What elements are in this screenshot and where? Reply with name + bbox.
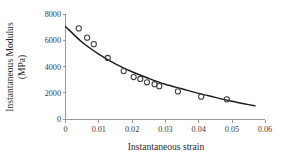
- x-tick-label-0.03: 0.03: [158, 125, 172, 134]
- y-tick-label-4000: 4000: [45, 63, 61, 72]
- data-point: [138, 76, 143, 81]
- data-point: [85, 35, 90, 40]
- data-point: [91, 42, 96, 47]
- y-tick-label-6000: 6000: [45, 36, 61, 45]
- x-tick-label-0: 0: [63, 125, 67, 134]
- data-point: [121, 68, 126, 73]
- x-axis-title: Instantaneous strain: [128, 141, 205, 152]
- x-tick-label-0.05: 0.05: [225, 125, 239, 134]
- scatter-plot: Instantaneous Modulus (MPa) 8000 6000 40…: [0, 0, 281, 158]
- data-point: [199, 94, 204, 99]
- data-point: [175, 89, 180, 94]
- y-tick-label-8000: 8000: [45, 10, 61, 19]
- y-tick-label-2000: 2000: [45, 89, 61, 98]
- data-point: [144, 80, 149, 85]
- data-point: [157, 84, 162, 89]
- fit-curve: [66, 26, 256, 105]
- x-tick-label-0.02: 0.02: [125, 125, 139, 134]
- data-point: [131, 74, 136, 79]
- y-axis-title-line2: (MPa): [16, 55, 28, 80]
- x-tick-label-0.01: 0.01: [92, 125, 106, 134]
- chart-figure: Instantaneous Modulus (MPa) 8000 6000 40…: [0, 0, 281, 158]
- data-point: [76, 26, 81, 31]
- x-tick-label-0.04: 0.04: [192, 125, 206, 134]
- y-tick-label-0: 0: [57, 115, 61, 124]
- x-tick-label-0.06: 0.06: [258, 125, 272, 134]
- fit-curve-layer: [66, 26, 256, 105]
- y-axis-title-line1: Instantaneous Modulus: [4, 22, 15, 112]
- data-points-layer: [76, 26, 229, 102]
